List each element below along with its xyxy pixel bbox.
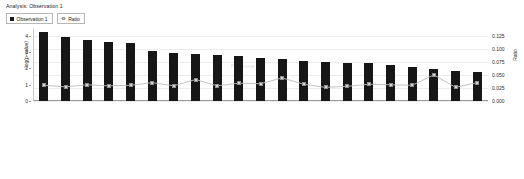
bar[interactable] — [343, 63, 352, 101]
bar[interactable] — [126, 43, 135, 101]
bar[interactable] — [429, 69, 438, 101]
tick-mark — [29, 85, 31, 86]
bar[interactable] — [39, 32, 48, 101]
bar[interactable] — [278, 59, 287, 101]
bar[interactable] — [451, 71, 460, 101]
analysis-chart-panel: Analysis: Observation 1 Observation 1 Ra… — [0, 0, 524, 179]
bar[interactable] — [473, 72, 482, 101]
y-axis-left-label: -log(p-value) — [23, 25, 29, 85]
tick-mark — [29, 36, 31, 37]
bar[interactable] — [104, 42, 113, 101]
y-axis-left-tick: 0 — [2, 98, 28, 104]
bar-swatch-icon — [10, 17, 14, 21]
bar[interactable] — [364, 63, 373, 101]
bar[interactable] — [213, 55, 222, 101]
tick-mark — [29, 101, 31, 102]
legend-item-ratio[interactable]: Ratio — [57, 13, 85, 24]
bar[interactable] — [191, 54, 200, 101]
bar[interactable] — [234, 56, 243, 101]
bar[interactable] — [299, 61, 308, 101]
legend-item-label: Observation 1 — [17, 16, 48, 22]
legend-item-label: Ratio — [68, 16, 80, 22]
bar[interactable] — [148, 51, 157, 101]
y-axis-right-tick: 0.025 — [492, 85, 518, 91]
x-axis-category-labels: Pyrimidine MetabolismArginine and Prolin… — [33, 101, 488, 179]
legend-item-observation[interactable]: Observation 1 — [6, 13, 53, 24]
bar[interactable] — [61, 37, 70, 101]
bar[interactable] — [386, 65, 395, 101]
chart-legend: Observation 1 Ratio — [6, 13, 85, 24]
bar-series — [33, 29, 488, 101]
bar[interactable] — [83, 40, 92, 101]
line-swatch-icon — [61, 17, 66, 21]
page-title: Analysis: Observation 1 — [6, 3, 63, 9]
bar[interactable] — [169, 53, 178, 101]
bar[interactable] — [321, 62, 330, 101]
tick-mark — [29, 68, 31, 69]
tick-mark — [29, 52, 31, 53]
y-axis-right-label: Ratio — [512, 25, 518, 85]
bar[interactable] — [408, 67, 417, 101]
bar[interactable] — [256, 58, 265, 101]
y-axis-right-tick: 0.000 — [492, 98, 518, 104]
